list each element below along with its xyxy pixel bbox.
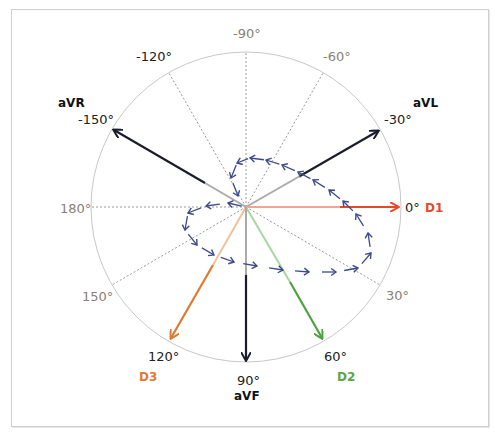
lead-label-aVR: aVR xyxy=(58,96,85,110)
angle-label-90: 90° xyxy=(237,374,260,388)
lead-label-D2: D2 xyxy=(337,370,355,384)
lead-label-D1: D1 xyxy=(425,201,443,215)
hexaxial-diagram xyxy=(0,0,495,435)
angle-label-150: 150° xyxy=(82,290,113,304)
angle-label-neg120: -120° xyxy=(136,50,172,64)
angle-label-neg30: -30° xyxy=(384,113,412,127)
lead-label-D3: D3 xyxy=(139,370,157,384)
angle-label-30: 30° xyxy=(386,289,409,303)
vector-loop-arrows xyxy=(182,155,372,275)
angle-label-60: 60° xyxy=(324,350,347,364)
angle-label-180: 180° xyxy=(60,202,91,216)
lead-D3-vector xyxy=(171,207,246,338)
lead-aVL-vector xyxy=(246,131,378,207)
angle-label-neg150: -150° xyxy=(78,113,114,127)
lead-D2-vector xyxy=(246,207,322,338)
angle-label-neg60: -60° xyxy=(323,50,351,64)
angle-label-120: 120° xyxy=(148,350,179,364)
angle-label-0: 0° xyxy=(405,201,420,215)
lead-label-aVF: aVF xyxy=(234,389,260,403)
angle-label-neg90: -90° xyxy=(233,27,261,41)
lead-aVR-vector xyxy=(114,130,246,207)
lead-label-aVL: aVL xyxy=(413,96,438,110)
